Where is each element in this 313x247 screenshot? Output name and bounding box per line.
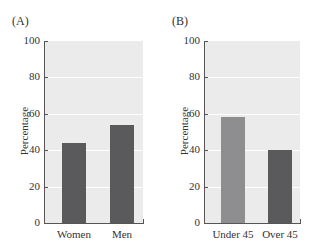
x-tick-label: Under 45: [208, 228, 258, 240]
y-tick-label: 80: [176, 70, 200, 82]
gridline: [205, 77, 300, 78]
x-tick-label: Over 45: [255, 228, 305, 240]
y-tick-label: 20: [176, 180, 200, 192]
x-axis-end-tick: [300, 219, 301, 224]
panel-label: (B): [172, 14, 188, 29]
y-axis: [204, 41, 205, 224]
chart-panel-b: (B)020406080100PercentageUnder 45Over 45: [0, 0, 313, 247]
y-tick-label: 100: [176, 34, 200, 46]
y-tick-label: 0: [176, 216, 200, 228]
y-axis-label: Percentage: [178, 101, 190, 161]
bar-under-45: [221, 117, 245, 223]
x-axis: [204, 223, 301, 224]
bar-over-45: [268, 150, 292, 223]
gridline: [205, 114, 300, 115]
